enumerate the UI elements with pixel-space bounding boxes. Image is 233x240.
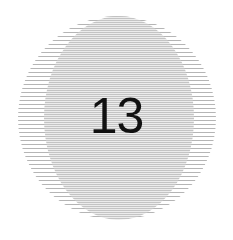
plate-number: 13 xyxy=(0,86,233,146)
